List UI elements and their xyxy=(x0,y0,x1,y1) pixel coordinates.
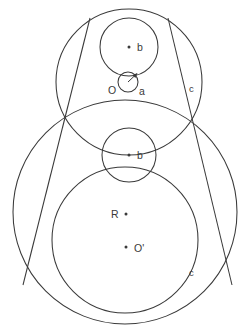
label-a: a xyxy=(139,85,145,97)
geometry-diagram: b b a O R O' c c xyxy=(0,0,251,336)
tangent-line-left xyxy=(23,18,90,285)
diagram-canvas: b b a O R O' c c xyxy=(0,0,251,336)
circle-R-inner xyxy=(52,167,198,313)
circle-c-upper xyxy=(56,9,202,155)
dot-b-upper-center xyxy=(128,46,131,49)
label-O: O xyxy=(108,84,116,96)
label-O-prime: O' xyxy=(134,242,144,254)
label-R: R xyxy=(111,208,119,220)
label-c-upper: c xyxy=(189,83,194,94)
dot-O-prime-center xyxy=(125,246,128,249)
label-b-upper: b xyxy=(137,41,143,53)
label-b-lower: b xyxy=(137,149,143,161)
label-c-lower: c xyxy=(189,267,194,278)
tangent-line-right xyxy=(168,18,232,285)
dot-R-marker xyxy=(125,213,128,216)
circle-c-lower xyxy=(13,100,237,324)
dot-b-lower-center xyxy=(128,154,131,157)
